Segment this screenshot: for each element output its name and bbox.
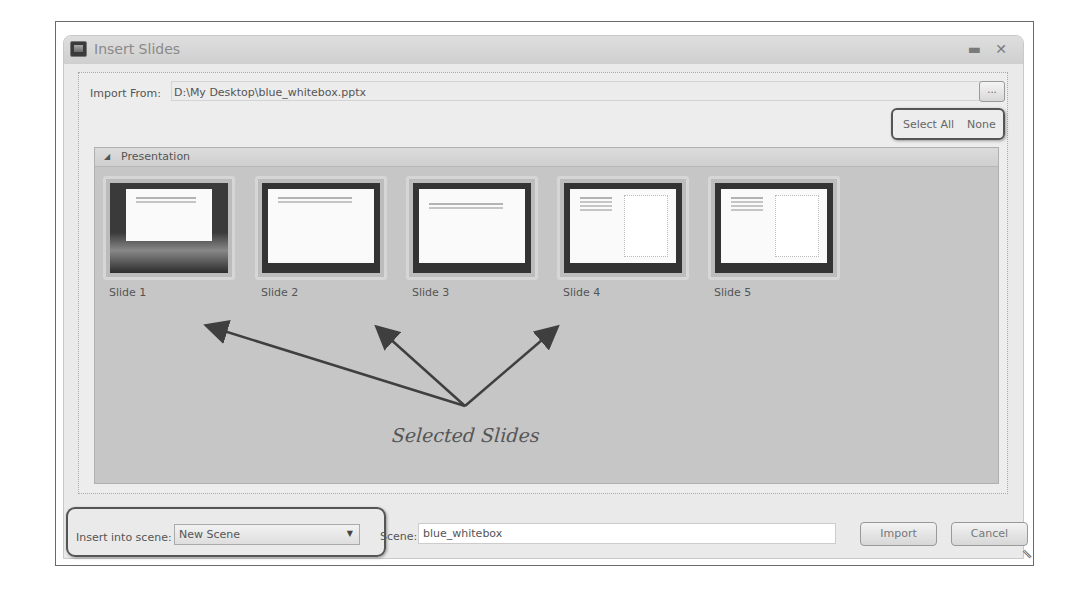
insert-into-scene-label: Insert into scene: <box>76 531 172 544</box>
dropdown-value: New Scene <box>179 528 240 541</box>
chevron-down-icon[interactable]: ▼ <box>347 529 353 538</box>
selected-slides-annotation: Selected Slides <box>391 424 540 446</box>
cancel-button[interactable]: Cancel <box>951 522 1028 546</box>
insert-into-scene-dropdown[interactable]: New Scene ▼ <box>174 524 360 545</box>
scene-name-input[interactable]: blue_whitebox <box>418 523 836 544</box>
import-button[interactable]: Import <box>860 522 937 546</box>
scene-label: Scene: <box>380 530 417 543</box>
